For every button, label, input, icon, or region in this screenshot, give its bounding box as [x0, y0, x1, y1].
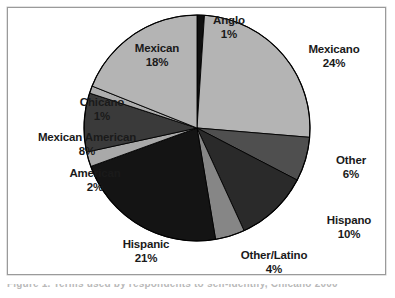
pie-label-mexicano: Mexicano 24%: [286, 43, 382, 70]
chart-plot-frame: Anglo 1% Mexicano 24% Other 6% Hispano 1…: [7, 7, 386, 275]
pie-label-american-value: 2%: [47, 181, 143, 195]
pie-label-american: American 2%: [47, 167, 143, 194]
pie-label-other: Other 6%: [320, 154, 382, 181]
pie-label-hispanic-name: Hispanic: [100, 238, 192, 252]
pie-label-mexican-american: Mexican American 8%: [13, 131, 161, 158]
pie-label-anglo-value: 1%: [184, 28, 274, 42]
figure-caption-strip: Figure 1. Terms used by respondents to s…: [7, 284, 386, 297]
pie-label-mexican-name: Mexican: [111, 42, 203, 56]
figure-caption: Figure 1. Terms used by respondents to s…: [7, 284, 386, 289]
pie-label-other-name: Other: [320, 154, 382, 168]
pie-label-mexican-american-name: Mexican American: [13, 131, 161, 145]
pie-label-american-name: American: [47, 167, 143, 181]
pie-label-hispano-name: Hispano: [311, 214, 387, 228]
pie-label-chicano-value: 1%: [59, 110, 145, 124]
pie-label-anglo-name: Anglo: [184, 14, 274, 28]
pie-label-chicano-name: Chicano: [59, 96, 145, 110]
pie-label-hispanic-value: 21%: [100, 252, 192, 266]
pie-label-mexican: Mexican 18%: [111, 42, 203, 69]
pie-label-mexican-value: 18%: [111, 56, 203, 70]
pie-label-other-value: 6%: [320, 168, 382, 182]
pie-label-other-latino-name: Other/Latino: [219, 249, 329, 263]
pie-label-mexican-american-value: 8%: [13, 145, 161, 159]
pie-label-other-latino-value: 4%: [219, 263, 329, 277]
pie-label-mexicano-name: Mexicano: [286, 43, 382, 57]
pie-label-chicano: Chicano 1%: [59, 96, 145, 123]
pie-label-hispano: Hispano 10%: [311, 214, 387, 241]
pie-label-hispano-value: 10%: [311, 228, 387, 242]
pie-chart-figure: Anglo 1% Mexicano 24% Other 6% Hispano 1…: [0, 0, 395, 298]
pie-label-hispanic: Hispanic 21%: [100, 238, 192, 265]
pie-label-other-latino: Other/Latino 4%: [219, 249, 329, 276]
pie-label-anglo: Anglo 1%: [184, 14, 274, 41]
pie-label-mexicano-value: 24%: [286, 57, 382, 71]
